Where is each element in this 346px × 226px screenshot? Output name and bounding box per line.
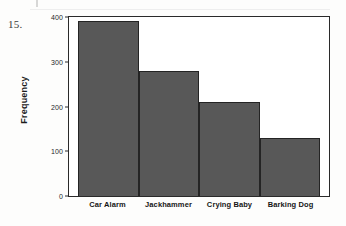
x-axis-label: Barking Dog bbox=[260, 200, 321, 209]
y-axis-tick-mark bbox=[65, 196, 69, 197]
bar-column bbox=[260, 17, 321, 196]
plot-area: 0100200300400 bbox=[68, 16, 330, 197]
bars-container bbox=[78, 17, 320, 196]
x-axis-label: Jackhammer bbox=[138, 200, 199, 209]
y-axis-tick-label: 200 bbox=[51, 103, 65, 110]
y-axis-tick-mark bbox=[65, 61, 69, 62]
y-axis-tick: 300 bbox=[51, 58, 69, 65]
x-axis-label: Crying Baby bbox=[199, 200, 260, 209]
x-axis-labels: Car AlarmJackhammerCrying BabyBarking Do… bbox=[77, 200, 321, 209]
bar bbox=[260, 138, 321, 196]
y-axis-tick: 100 bbox=[51, 148, 69, 155]
y-axis-tick: 400 bbox=[51, 14, 69, 21]
bar bbox=[199, 102, 260, 196]
y-axis-title: Frequency bbox=[19, 55, 29, 145]
bar-chart: Frequency 0100200300400 Car AlarmJackham… bbox=[0, 0, 346, 226]
bar bbox=[78, 21, 139, 196]
y-axis-tick-label: 100 bbox=[51, 148, 65, 155]
y-axis-tick: 200 bbox=[51, 103, 69, 110]
bar bbox=[139, 71, 200, 196]
bar-column bbox=[139, 17, 200, 196]
bar-column bbox=[78, 17, 139, 196]
bar-column bbox=[199, 17, 260, 196]
y-axis-tick-label: 400 bbox=[51, 14, 65, 21]
y-axis-tick-mark bbox=[65, 151, 69, 152]
y-axis-tick-mark bbox=[65, 106, 69, 107]
y-axis-tick-label: 300 bbox=[51, 58, 65, 65]
y-axis-tick-mark bbox=[65, 17, 69, 18]
x-axis-label: Car Alarm bbox=[77, 200, 138, 209]
y-axis-tick: 0 bbox=[59, 193, 69, 200]
